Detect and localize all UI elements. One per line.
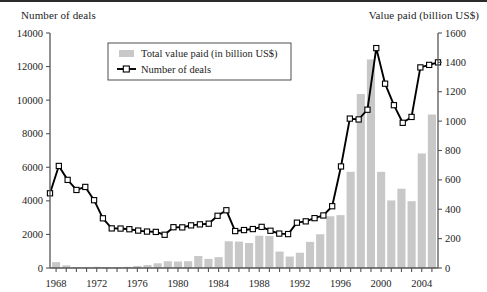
line-marker: [188, 223, 193, 228]
line-marker: [338, 164, 343, 169]
bar-2003: [408, 201, 416, 268]
bar-1978: [154, 263, 162, 268]
y-tick-label-left: 4000: [22, 195, 43, 206]
x-tick-label: 1980: [167, 278, 188, 289]
line-marker: [153, 229, 158, 234]
line-marker: [312, 216, 317, 221]
chart-svg: 0200040006000800010000120001400002004006…: [0, 0, 487, 292]
line-marker: [74, 187, 79, 192]
y-tick-label-left: 8000: [22, 128, 43, 139]
bar-1985: [225, 241, 233, 268]
x-tick-label: 1976: [127, 278, 148, 289]
line-marker: [330, 204, 335, 209]
legend-label-deals: Number of deals: [141, 64, 211, 75]
line-marker: [109, 226, 114, 231]
line-marker: [100, 216, 105, 221]
line-marker: [303, 219, 308, 224]
line-marker: [374, 46, 379, 51]
line-marker: [400, 120, 405, 125]
line-marker: [144, 229, 149, 234]
line-marker: [83, 184, 88, 189]
y-tick-label-left: 12000: [17, 61, 43, 72]
x-tick-label: 1992: [289, 278, 310, 289]
x-tick-label: 1972: [86, 278, 107, 289]
line-marker: [294, 220, 299, 225]
chart-figure: Number of deals Value paid (billion US$)…: [0, 0, 487, 292]
line-marker: [365, 107, 370, 112]
y-tick-label-right: 0: [445, 263, 450, 274]
plot-area: 0200040006000800010000120001400002004006…: [0, 0, 487, 292]
line-marker: [409, 114, 414, 119]
bar-1994: [316, 234, 324, 268]
line-marker: [356, 117, 361, 122]
line-marker: [391, 103, 396, 108]
legend-swatch-bar: [119, 50, 134, 57]
line-marker: [250, 226, 255, 231]
line-marker: [241, 227, 246, 232]
bar-series-group: [52, 59, 436, 268]
y-tick-label-right: 800: [445, 145, 461, 156]
y-tick-label-left: 14000: [17, 28, 43, 39]
x-tick-label: 1988: [249, 278, 270, 289]
bar-2005: [428, 115, 436, 268]
bar-1993: [306, 242, 314, 268]
line-marker: [171, 225, 176, 230]
x-tick-label: 2000: [371, 278, 392, 289]
bar-1989: [265, 236, 273, 268]
line-marker: [427, 62, 432, 67]
bar-1991: [286, 257, 294, 268]
y-tick-label-right: 200: [445, 233, 461, 244]
bar-2002: [397, 189, 405, 268]
y-tick-label-left: 6000: [22, 162, 43, 173]
line-marker: [136, 228, 141, 233]
x-tick-label: 1996: [330, 278, 351, 289]
legend-marker-deals: [123, 66, 129, 72]
bar-1980: [174, 262, 182, 268]
x-tick-label: 2004: [411, 278, 433, 289]
bar-1982: [194, 256, 202, 268]
line-marker: [277, 231, 282, 236]
x-tick-label: 1968: [46, 278, 67, 289]
line-marker: [162, 232, 167, 237]
line-marker: [56, 163, 61, 168]
line-marker: [233, 228, 238, 233]
line-marker: [321, 213, 326, 218]
line-marker: [65, 177, 70, 182]
bar-1990: [275, 252, 283, 268]
line-marker: [197, 222, 202, 227]
bar-1983: [204, 259, 212, 268]
bar-1988: [255, 236, 263, 268]
bar-1979: [164, 261, 172, 268]
line-marker: [206, 221, 211, 226]
y-tick-label-right: 1000: [445, 116, 466, 127]
line-marker: [418, 65, 423, 70]
line-marker: [285, 231, 290, 236]
bar-1986: [235, 242, 243, 268]
y-tick-label-left: 10000: [17, 95, 43, 106]
line-marker: [215, 213, 220, 218]
y-tick-label-right: 400: [445, 204, 461, 215]
y-tick-label-right: 1600: [445, 28, 466, 39]
bar-1981: [184, 261, 192, 268]
line-marker: [382, 81, 387, 86]
bar-2001: [387, 200, 395, 268]
line-marker: [127, 227, 132, 232]
bar-2000: [377, 172, 385, 268]
bar-1987: [245, 243, 253, 268]
line-marker: [259, 224, 264, 229]
y-tick-label-left: 2000: [22, 229, 43, 240]
bar-1995: [326, 216, 334, 268]
line-marker: [91, 198, 96, 203]
bar-1968: [52, 262, 60, 268]
y-tick-label-left: 0: [38, 263, 43, 274]
bar-1997: [347, 172, 355, 268]
x-tick-label: 1984: [208, 278, 230, 289]
y-tick-label-right: 1200: [445, 86, 466, 97]
y-tick-label-right: 1400: [445, 57, 466, 68]
line-marker: [118, 226, 123, 231]
bar-2004: [418, 153, 426, 268]
line-marker: [347, 116, 352, 121]
bar-1996: [336, 215, 344, 268]
chart-legend: Total value paid (in billion US$)Number …: [108, 43, 291, 80]
legend-label-bar: Total value paid (in billion US$): [141, 48, 278, 60]
